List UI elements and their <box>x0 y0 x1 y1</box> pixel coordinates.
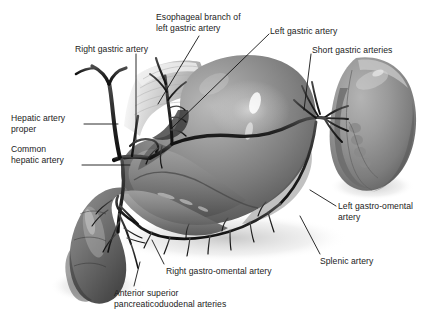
leader-left-gastro-omental <box>310 190 336 206</box>
label-right-gastric-artery: Right gastric artery <box>75 44 148 55</box>
label-left-gastric-artery: Left gastric artery <box>270 26 337 37</box>
label-hepatic-artery-proper: Hepatic artery proper <box>11 113 65 134</box>
label-left-gastro-omental-artery: Left gastro-omental artery <box>338 201 413 222</box>
label-right-gastro-omental-artery: Right gastro-omental artery <box>166 266 271 277</box>
label-common-hepatic-artery: Common hepatic artery <box>11 144 64 165</box>
label-esophageal-branch-of-left-gastric-artery: Esophageal branch of left gastric artery <box>156 12 241 33</box>
spleen <box>330 57 416 192</box>
label-short-gastric-arteries: Short gastric arteries <box>312 45 392 56</box>
label-splenic-artery: Splenic artery <box>320 256 373 267</box>
label-anterior-superior-pancreaticoduodenal-arteries: Anterior superior pancreaticoduodenal ar… <box>114 288 226 309</box>
anatomical-figure: Esophageal branch of left gastric artery… <box>0 0 446 326</box>
